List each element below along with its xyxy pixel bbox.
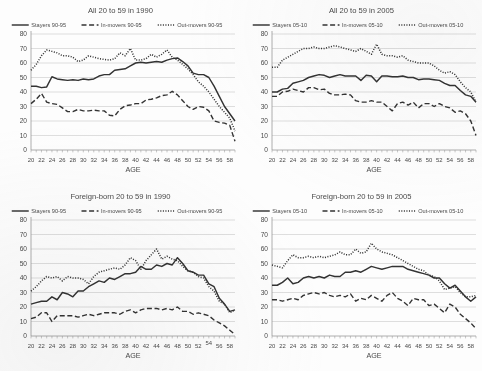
x-axis: 2022242628303234363840424446485052545658 [28,150,235,163]
x-axis-tick-label: 50 [185,343,192,349]
y-axis-tick-label: 10 [261,132,269,139]
x-axis-tick-label: 42 [143,157,150,163]
x-axis-tick-label: 46 [164,343,171,349]
x-axis-tick-label: 22 [279,157,286,163]
chart-gridlines: 01020304050607080 [261,216,476,339]
x-axis-tick-label: 26 [59,343,66,349]
series-line [31,307,235,335]
legend-label: In-movers 05-10 [342,208,383,214]
chart-legend: Stayers 90-95In-movers 90-95Out-movers 9… [12,22,223,28]
x-axis-tick-label: 38 [363,157,370,163]
series-line [272,243,476,297]
x-axis-tick-label: 28 [70,343,77,349]
y-axis-tick-label: 10 [261,318,269,325]
y-axis-tick-label: 80 [261,30,269,37]
x-axis-tick-label: 32 [90,157,97,163]
x-axis-tick-label: 34 [101,343,108,349]
chart-svg: Foreign-born 20 to 59 in 2005Stayers 05-… [241,186,482,371]
x-axis-tick-label: 22 [279,343,286,349]
y-axis-tick-label: 70 [20,45,28,52]
chart-panel: All 20 to 59 in 1990Stayers 90-95In-move… [0,0,241,186]
x-axis-tick-label: 48 [174,343,181,349]
y-axis-tick-label: 0 [23,332,27,339]
x-axis-tick-label: 36 [111,157,118,163]
y-axis-tick-label: 40 [261,88,269,95]
legend-label: Out-movers 90-95 [177,22,222,28]
y-axis-tick-label: 20 [20,117,28,124]
legend-label: In-movers 90-95 [101,208,142,214]
y-axis-tick-label: 10 [20,318,28,325]
x-axis-tick-label: 30 [80,343,87,349]
x-axis-tick-label: 32 [331,157,338,163]
x-axis-tick-label: 42 [384,343,391,349]
y-axis-tick-label: 30 [20,103,28,110]
legend-label: Out-movers 90-95 [177,208,222,214]
x-axis-tick-label: 48 [415,343,422,349]
y-axis-tick-label: 50 [20,260,28,267]
x-axis-tick-label: 26 [300,157,307,163]
chart-title: All 20 to 59 in 2005 [329,6,394,15]
y-axis-tick-label: 30 [20,289,28,296]
legend-label: Out-movers 05-10 [418,208,463,214]
y-axis-tick-label: 60 [20,59,28,66]
x-axis-tick-label: 22 [38,157,45,163]
x-axis-tick-label: 24 [49,343,56,349]
y-axis-tick-label: 20 [261,117,269,124]
chart-panel: Foreign-born 20 to 59 in 1990Stayers 90-… [0,186,241,371]
y-axis-tick-label: 50 [20,74,28,81]
x-axis: 2022242628303234363840424446485052545658 [28,336,235,349]
legend-label: Stayers 05-10 [272,22,307,28]
x-axis-tick-label: 28 [311,343,318,349]
chart-svg: All 20 to 59 in 2005Stayers 05-10In-move… [241,0,482,186]
x-axis-tick-label: 30 [321,343,328,349]
x-axis-tick-label: 36 [111,343,118,349]
x-axis-tick-label: 56 [216,343,223,349]
x-axis-tick-label: 58 [226,343,233,349]
y-axis-tick-label: 20 [261,303,269,310]
x-axis-tick-label: 54 [206,340,213,346]
x-axis-tick-label: 26 [300,343,307,349]
series-line [31,58,235,121]
x-axis-tick-label: 40 [132,343,139,349]
y-axis-tick-label: 60 [261,245,269,252]
chart-title: Foreign-born 20 to 59 in 2005 [311,192,411,201]
y-axis-tick-label: 20 [20,303,28,310]
x-axis-tick-label: 44 [153,343,160,349]
legend-label: In-movers 05-10 [342,22,383,28]
y-axis-tick-label: 60 [20,245,28,252]
x-axis-tick-label: 52 [436,157,443,163]
x-axis-tick-label: 20 [28,157,35,163]
x-axis-tick-label: 44 [153,157,160,163]
x-axis-tick-label: 22 [38,343,45,349]
chart-panel: All 20 to 59 in 2005Stayers 05-10In-move… [241,0,482,186]
chart-gridlines: 01020304050607080 [20,30,235,153]
series-line [31,249,235,313]
x-axis-tick-label: 30 [321,157,328,163]
chart-panel: Foreign-born 20 to 59 in 2005Stayers 05-… [241,186,482,371]
series-line [272,88,476,136]
y-axis-tick-label: 70 [261,45,269,52]
x-axis-tick-label: 32 [90,343,97,349]
x-axis-tick-label: 40 [132,157,139,163]
y-axis-tick-label: 40 [261,274,269,281]
x-axis-tick-label: 42 [384,157,391,163]
x-axis-tick-label: 54 [447,343,454,349]
x-axis-tick-label: 36 [352,343,359,349]
x-axis-tick-label: 40 [373,343,380,349]
x-axis-tick-label: 50 [426,343,433,349]
chart-svg: All 20 to 59 in 1990Stayers 90-95In-move… [0,0,241,186]
x-axis-label: AGE [366,351,381,360]
chart-title: All 20 to 59 in 1990 [88,6,153,15]
x-axis-tick-label: 44 [394,343,401,349]
x-axis-label: AGE [366,165,381,174]
x-axis-tick-label: 28 [70,157,77,163]
x-axis-tick-label: 36 [352,157,359,163]
x-axis-label: AGE [125,351,140,360]
chart-series-group [31,49,235,142]
series-line [272,75,476,103]
x-axis-tick-label: 20 [269,343,276,349]
x-axis-tick-label: 48 [174,157,181,163]
x-axis-tick-label: 34 [342,343,349,349]
x-axis-tick-label: 38 [363,343,370,349]
x-axis-tick-label: 38 [122,157,129,163]
